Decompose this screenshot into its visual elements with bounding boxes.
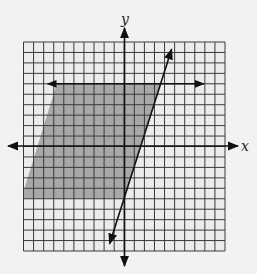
x-axis-label: x xyxy=(241,138,249,154)
y-axis-label: y xyxy=(120,11,130,27)
coordinate-plane: y x xyxy=(0,0,257,274)
